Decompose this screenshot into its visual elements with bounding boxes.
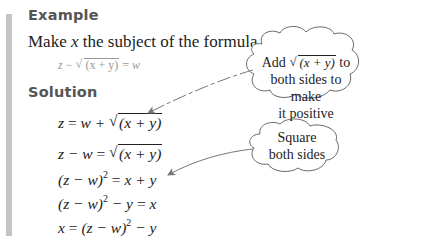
arrow-to-step-1 bbox=[148, 70, 253, 113]
callout-2-line-2: both sides bbox=[262, 146, 332, 163]
arrow-to-step-3 bbox=[168, 149, 253, 175]
callout-2-line-1: Square bbox=[262, 129, 332, 146]
callout-1-line-3: it positive bbox=[258, 105, 354, 122]
callout-radicand: (x + y) bbox=[298, 55, 335, 71]
callout-1-line-1: Add (x + y) to bbox=[258, 54, 354, 71]
sqrt-symbol: (x + y) bbox=[289, 54, 335, 71]
callout-text: Add bbox=[262, 55, 290, 70]
callout-add-sqrt: Add (x + y) to both sides to make it pos… bbox=[258, 54, 354, 122]
callout-square: Square both sides bbox=[262, 129, 332, 163]
callout-1-line-2: both sides to make bbox=[258, 71, 354, 105]
callout-text: to bbox=[336, 55, 350, 70]
callout-graphics bbox=[0, 0, 438, 242]
